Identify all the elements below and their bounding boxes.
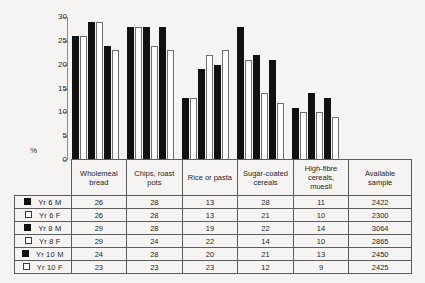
bar xyxy=(96,22,103,160)
bar xyxy=(316,112,323,160)
table-column-header: Rice or pasta xyxy=(182,160,238,196)
table-cell: 11 xyxy=(293,196,349,209)
filled-square-icon xyxy=(22,250,29,257)
table-cell: 2425 xyxy=(349,261,412,274)
bar xyxy=(182,98,189,160)
table-row: Yr 8 F29242214102865 xyxy=(15,235,412,248)
plot-region: % 302520151050 xyxy=(0,0,425,162)
table-cell: 2300 xyxy=(349,209,412,222)
legend-cell: Yr 10 F xyxy=(15,261,72,274)
column-header-line: High-fibre xyxy=(294,164,349,173)
column-header-line: cereals xyxy=(238,178,293,187)
bar xyxy=(308,93,315,160)
bar xyxy=(245,60,252,160)
column-header-line: sample xyxy=(349,178,411,187)
bar xyxy=(292,108,299,160)
filled-square-icon xyxy=(24,198,31,205)
y-axis-tick-label: 25 xyxy=(45,37,67,45)
bar-group xyxy=(123,17,178,160)
table-cell: 22 xyxy=(238,222,294,235)
table-cell: 28 xyxy=(127,196,183,209)
table-cell: 29 xyxy=(71,222,127,235)
bar-group xyxy=(233,17,288,160)
bar xyxy=(190,98,197,160)
table-column-header: Availablesample xyxy=(349,160,412,196)
series-label: Yr 6 M xyxy=(38,198,61,207)
column-header-line: bread xyxy=(72,178,127,187)
bar xyxy=(261,93,268,160)
y-axis-tick-label: 15 xyxy=(45,85,67,93)
table-cell: 23 xyxy=(71,261,127,274)
table-cell: 21 xyxy=(238,209,294,222)
table-cell: 20 xyxy=(182,248,238,261)
table-cell: 24 xyxy=(71,248,127,261)
bar-group xyxy=(178,17,233,160)
series-label: Yr 8 M xyxy=(38,224,61,233)
y-axis-tick-label: 5 xyxy=(45,132,67,140)
open-square-icon xyxy=(25,211,32,218)
column-header-line: Rice or pasta xyxy=(183,173,238,182)
table-cell: 23 xyxy=(182,261,238,274)
table-cell: 10 xyxy=(293,235,349,248)
bar xyxy=(80,36,87,160)
table-cell: 28 xyxy=(127,222,183,235)
table-header-row: WholemealbreadChips, roastpotsRice or pa… xyxy=(15,160,412,196)
column-header-line: pots xyxy=(127,178,182,187)
data-table-wrapper: WholemealbreadChips, roastpotsRice or pa… xyxy=(14,159,412,274)
column-header-line: cereals, xyxy=(294,173,349,182)
table-column-header: Chips, roastpots xyxy=(127,160,183,196)
table-cell: 13 xyxy=(182,209,238,222)
table-cell: 12 xyxy=(238,261,294,274)
filled-square-icon xyxy=(24,224,31,231)
bar xyxy=(222,50,229,160)
bar xyxy=(127,27,134,160)
table-row: Yr 8 M29281922143064 xyxy=(15,222,412,235)
series-label: Yr 8 F xyxy=(39,237,61,246)
series-label: Yr 6 F xyxy=(39,211,61,220)
table-cell: 26 xyxy=(71,196,127,209)
table-cell: 2422 xyxy=(349,196,412,209)
bar xyxy=(112,50,119,160)
column-header-line: Sugar-coated xyxy=(238,169,293,178)
legend-header-spacer xyxy=(15,160,72,196)
data-table-header: WholemealbreadChips, roastpotsRice or pa… xyxy=(15,160,412,196)
bars-layer xyxy=(68,17,357,160)
table-cell: 22 xyxy=(182,235,238,248)
legend-cell: Yr 6 F xyxy=(15,209,72,222)
table-column-header: Wholemealbread xyxy=(71,160,127,196)
bar xyxy=(269,60,276,160)
table-column-header: High-fibrecereals,muesli xyxy=(293,160,349,196)
series-label: Yr 10 F xyxy=(37,263,63,272)
table-cell: 9 xyxy=(293,261,349,274)
bar xyxy=(324,98,331,160)
table-cell: 21 xyxy=(238,248,294,261)
series-label: Yr 10 M xyxy=(36,250,64,259)
table-cell: 28 xyxy=(238,196,294,209)
column-header-line: muesli xyxy=(294,182,349,191)
column-header-line: Wholemeal xyxy=(72,169,127,178)
table-cell: 14 xyxy=(293,222,349,235)
bar-group xyxy=(68,17,123,160)
bar-chart-with-data-table: % 302520151050 WholemealbreadChips, roas… xyxy=(0,0,425,283)
table-cell: 23 xyxy=(127,261,183,274)
bar xyxy=(88,22,95,160)
table-cell: 19 xyxy=(182,222,238,235)
y-axis-label: % xyxy=(30,146,37,155)
legend-cell: Yr 8 F xyxy=(15,235,72,248)
open-square-icon xyxy=(25,237,32,244)
y-axis-tick-label: 30 xyxy=(45,13,67,21)
table-cell: 26 xyxy=(71,209,127,222)
bar xyxy=(151,46,158,160)
table-cell: 14 xyxy=(238,235,294,248)
table-cell: 13 xyxy=(182,196,238,209)
table-column-header: Sugar-coatedcereals xyxy=(238,160,294,196)
data-table-body: Yr 6 M26281328112422Yr 6 F26281321102300… xyxy=(15,196,412,274)
column-header-line: Available xyxy=(349,169,411,178)
bar xyxy=(253,55,260,160)
bar xyxy=(104,46,111,160)
table-cell: 10 xyxy=(293,209,349,222)
bar xyxy=(198,69,205,160)
bar xyxy=(72,36,79,160)
column-header-line: Chips, roast xyxy=(127,169,182,178)
bar xyxy=(143,27,150,160)
